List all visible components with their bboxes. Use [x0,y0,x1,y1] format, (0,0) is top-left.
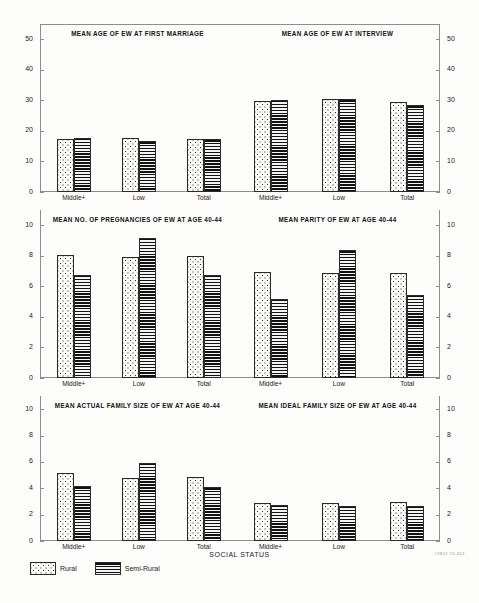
y-axis-tick-label: 4 [447,312,451,319]
bar-group [254,24,288,192]
y-axis-tick-label: 10 [13,221,33,228]
y-axis-tick-label: 10 [13,157,33,164]
x-axis-label: Middle+ [241,380,301,387]
x-axis-label: Total [174,543,234,550]
bar-semi-rural [271,100,288,192]
bar-group [322,396,356,541]
y-axis-tick-label: 30 [13,96,33,103]
y-axis-tick [40,378,44,379]
y-axis-tick-label: 0 [447,537,451,544]
chart-panel-mean-age-first-marriage: MEAN AGE OF EW AT FIRST MARRIAGE 0102030… [40,24,235,192]
y-axis-tick-label: 4 [447,484,451,491]
bar-semi-rural [204,139,221,192]
y-axis-tick-label: 50 [447,35,455,42]
bar-group [187,396,221,541]
x-axis-label: Total [377,194,437,201]
x-axis-label: Total [174,380,234,387]
bar-group [254,396,288,541]
bar-rural [187,256,204,378]
y-axis-tick-label: 10 [447,405,455,412]
x-axis-label: Middle+ [44,543,104,550]
x-axis-caption: SOCIAL STATUS [0,551,479,558]
x-axis-label: Low [109,194,169,201]
bar-semi-rural [339,250,356,378]
bar-rural [254,101,271,192]
chart-panel-mean-ideal-family-size: MEAN IDEAL FAMILY SIZE OF EW AT AGE 40-4… [235,396,440,541]
y-axis-tick-label: 10 [447,221,455,228]
x-axis-label: Middle+ [44,194,104,201]
y-axis-tick-label: 4 [13,312,33,319]
bar-group [390,24,424,192]
chart-panel-mean-actual-family-size: MEAN ACTUAL FAMILY SIZE OF EW AT AGE 40-… [40,396,235,541]
y-axis-tick-label: 8 [13,431,33,438]
bar-rural [122,478,139,541]
bar-series-container [40,24,235,192]
bar-series-container [40,396,235,541]
y-axis-tick-label: 2 [447,343,451,350]
chart-panel-mean-pregnancies: MEAN NO. OF PREGNANCIES OF EW AT AGE 40-… [40,210,235,378]
bar-semi-rural [271,299,288,378]
y-axis-tick-label: 8 [447,251,451,258]
y-axis-tick-label: 4 [13,484,33,491]
bar-rural [322,99,339,192]
bar-semi-rural [74,486,91,541]
bar-group [322,210,356,378]
y-axis-tick-label: 8 [447,431,451,438]
y-axis-tick [436,192,440,193]
y-axis-tick-label: 0 [447,374,451,381]
y-axis-tick-label: 2 [13,510,33,517]
legend-item-semi-rural: Semi-Rural [95,562,160,575]
y-axis-tick-label: 10 [13,405,33,412]
bar-semi-rural [74,275,91,378]
bar-group [57,210,91,378]
x-axis-label: Middle+ [241,194,301,201]
x-axis-label: Low [309,194,369,201]
bar-rural [187,477,204,541]
y-axis-tick [40,541,44,542]
bar-rural [390,502,407,541]
bar-rural [322,273,339,378]
bar-rural [57,139,74,192]
y-axis-tick-label: 6 [13,282,33,289]
bar-semi-rural [271,505,288,541]
bar-series-container [235,210,440,378]
bar-group [122,24,156,192]
bar-group [122,210,156,378]
bar-rural [254,503,271,541]
bar-group [57,396,91,541]
bar-rural [322,503,339,541]
bar-rural [187,139,204,192]
bar-semi-rural [204,275,221,378]
chart-panel-mean-parity: MEAN PARITY OF EW AT AGE 40-44 0246810 M… [235,210,440,378]
bar-semi-rural [139,141,156,192]
bar-semi-rural [339,99,356,192]
x-axis-label: Low [309,380,369,387]
legend: Rural Semi-Rural [30,562,160,575]
bar-rural [390,273,407,378]
x-axis-label: Middle+ [241,543,301,550]
bar-semi-rural [407,295,424,378]
x-axis-label: Low [109,380,169,387]
legend-swatch-rural-icon [30,562,56,575]
bar-semi-rural [74,138,91,192]
y-axis-tick-label: 8 [13,251,33,258]
bar-semi-rural [407,506,424,541]
bar-rural [254,272,271,378]
x-axis-label: Total [377,543,437,550]
bar-rural [122,257,139,378]
bar-series-container [235,24,440,192]
bar-group [187,24,221,192]
bar-group [390,396,424,541]
y-axis-tick [436,541,440,542]
y-axis-tick [436,378,440,379]
y-axis-tick-label: 6 [13,457,33,464]
bar-group [187,210,221,378]
bar-group [254,210,288,378]
y-axis-tick-label: 10 [447,157,455,164]
y-axis-tick-label: 50 [13,35,33,42]
x-axis-label: Low [109,543,169,550]
x-axis-label: Total [377,380,437,387]
y-axis-tick-label: 20 [447,126,455,133]
x-axis-label: Low [309,543,369,550]
bar-semi-rural [204,487,221,541]
